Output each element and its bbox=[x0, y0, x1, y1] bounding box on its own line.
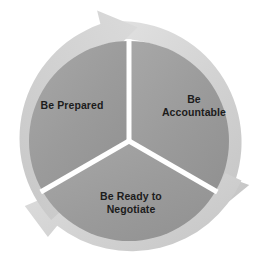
cycle-diagram-svg bbox=[0, 0, 261, 274]
cycle-diagram: Be Prepared Be Accountable Be Ready to N… bbox=[0, 0, 261, 274]
